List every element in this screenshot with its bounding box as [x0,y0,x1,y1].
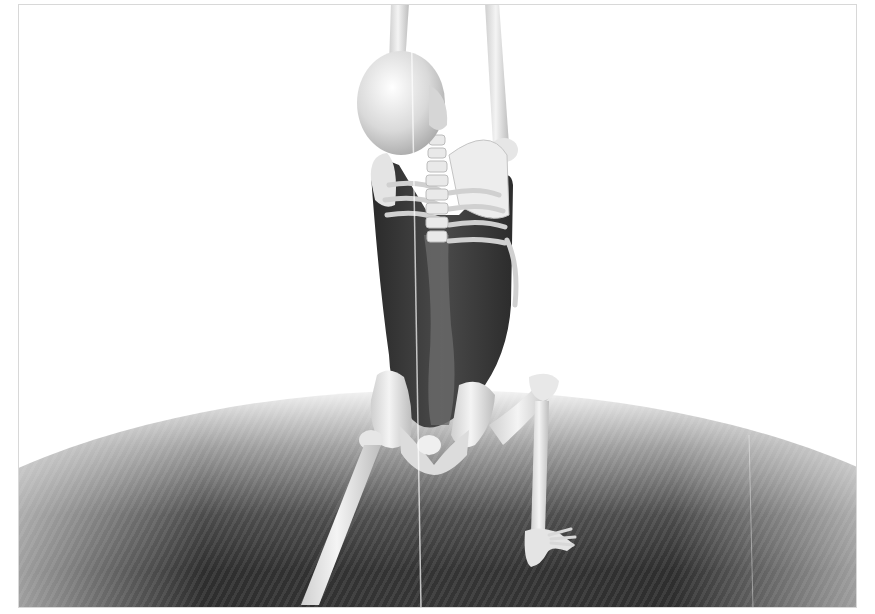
spine [426,135,448,242]
render-frame [18,4,857,608]
right-arm [485,5,518,162]
left-leg [301,430,383,605]
right-leg [489,374,559,533]
jaw [429,85,447,130]
right-foot [525,528,575,567]
suspension-line-right [749,435,753,608]
skeleton-figure [19,5,857,608]
